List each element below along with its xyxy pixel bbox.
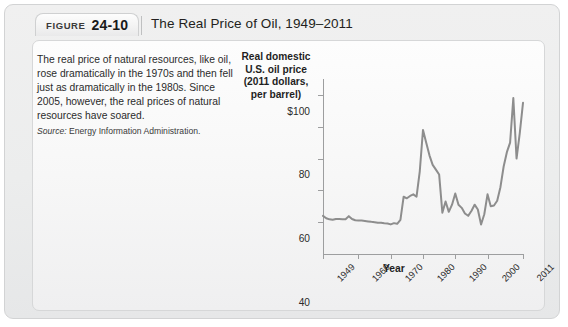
- oil-price-chart: Real domestic U.S. oil price (2011 dolla…: [237, 49, 537, 304]
- y-tick-label: $100: [287, 105, 310, 116]
- y-axis-title-line-3: (2011 dollars,: [237, 76, 315, 89]
- y-axis-title-line-1: Real domestic: [237, 51, 315, 64]
- x-tick-label: 1990: [467, 262, 489, 284]
- x-axis-title: Year: [383, 263, 405, 274]
- figure-panel: FIGURE 24-10 The Real Price of Oil, 1949…: [4, 4, 560, 319]
- figure-caption: The real price of natural resources, lik…: [37, 53, 233, 137]
- x-tick-label: 1980: [435, 262, 457, 284]
- y-tick-label: 40: [299, 296, 310, 307]
- x-tick-label: 1949: [335, 262, 357, 284]
- caption-source: Source: Energy Information Administratio…: [37, 125, 233, 137]
- figure-number-tab: FIGURE 24-10: [35, 13, 139, 36]
- figure-label: FIGURE: [46, 20, 86, 31]
- x-tick-label: 2000: [500, 262, 522, 284]
- caption-body: The real price of natural resources, lik…: [37, 53, 233, 123]
- y-axis-title: Real domestic U.S. oil price (2011 dolla…: [237, 51, 315, 101]
- y-tick-label: 60: [299, 233, 310, 244]
- source-text: Energy Information Administration.: [67, 126, 201, 136]
- y-axis-title-line-2: U.S. oil price: [237, 64, 315, 77]
- title-divider: [141, 16, 142, 35]
- source-label: Source:: [37, 126, 67, 136]
- oil-price-series: [323, 79, 524, 255]
- x-tick-label: 1970: [403, 262, 425, 284]
- figure-title: The Real Price of Oil, 1949–2011: [151, 16, 353, 31]
- y-tick-label: 80: [299, 169, 310, 180]
- y-axis-title-line-4: per barrel): [237, 89, 315, 102]
- plot-frame: $10080604020 194919601970198019902000201…: [323, 79, 523, 254]
- figure-number: 24-10: [92, 17, 129, 33]
